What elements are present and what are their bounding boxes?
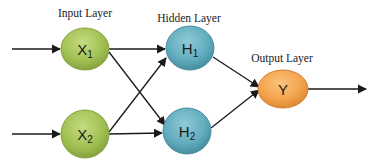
edge-x1-h2 <box>109 52 165 125</box>
node-y-label: Y <box>278 81 288 98</box>
node-x1-label: X <box>77 41 87 58</box>
hidden-layer-label: Hidden Layer <box>157 12 221 25</box>
node-x2: X2 <box>61 110 109 158</box>
node-h2-label: H <box>179 123 190 140</box>
node-y: Y <box>258 70 308 108</box>
node-h1: H1 <box>166 26 214 70</box>
node-h2: H2 <box>163 108 211 154</box>
node-x1-subscript: 1 <box>87 49 93 60</box>
edge-x2-h2 <box>109 133 162 134</box>
node-x2-label: X <box>77 126 87 143</box>
node-h1-label: H <box>182 40 193 57</box>
input-layer-label: Input Layer <box>58 7 112 20</box>
output-layer-label: Output Layer <box>251 52 313 65</box>
edge-h2-y <box>211 90 259 128</box>
neural-network-diagram: Input Layer Hidden Layer Output Layer X1… <box>0 0 377 164</box>
node-h2-subscript: 2 <box>190 131 196 142</box>
node-h1-subscript: 1 <box>193 48 199 59</box>
node-x2-subscript: 2 <box>87 134 93 145</box>
edge-x2-h1 <box>109 58 166 132</box>
node-x1: X1 <box>61 28 109 70</box>
